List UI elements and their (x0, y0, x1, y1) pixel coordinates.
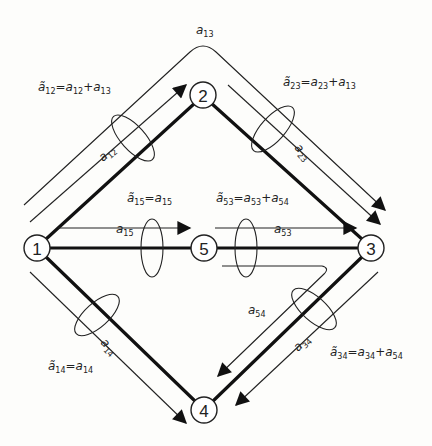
label-a13: a13 (196, 23, 214, 39)
equation-e15: ã15=a15 (127, 191, 172, 207)
label-a15: a15 (116, 222, 134, 238)
node-4: 4 (191, 397, 217, 423)
svg-text:4: 4 (199, 402, 208, 421)
svg-text:1: 1 (32, 240, 41, 259)
equation-e23: ã23=a23+a13 (283, 75, 356, 91)
edge-2-3 (211, 103, 363, 240)
svg-text:5: 5 (199, 240, 208, 259)
equation-e34: ã34=a34+a54 (330, 345, 403, 361)
node-3: 3 (358, 235, 384, 261)
label-a12: a12 (96, 142, 120, 166)
aggregation-ellipses (68, 99, 343, 342)
svg-text:3: 3 (366, 240, 375, 259)
network-flow-diagram: 1 2 3 4 5 a13 a12 a23 a15 a53 a54 a14 a3… (0, 0, 432, 446)
label-a54: a54 (248, 303, 266, 319)
node-2: 2 (190, 82, 216, 108)
flow-a13-path (24, 46, 385, 210)
svg-text:2: 2 (198, 87, 207, 106)
node-1: 1 (24, 235, 50, 261)
equation-e12: ã12=a12+a13 (38, 80, 111, 96)
node-5: 5 (191, 235, 217, 261)
ellipse-e34 (285, 281, 343, 336)
edge-3-4 (212, 256, 363, 402)
edge-1-4 (45, 256, 196, 402)
equation-e53: ã53=a53+a54 (216, 191, 289, 207)
equation-e14: ã14=a14 (48, 359, 93, 375)
label-a53: a53 (274, 222, 292, 238)
ellipse-e14 (68, 287, 126, 342)
edge-1-2 (45, 103, 195, 240)
